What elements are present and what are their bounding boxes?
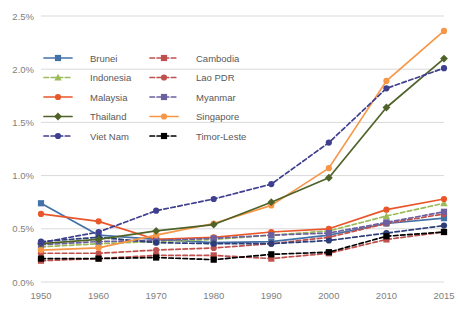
chart-container: 0.0%0.5%1.0%1.5%2.0%2.5%1950196019701980…	[0, 0, 459, 321]
x-tick-label: 2015	[433, 290, 454, 301]
marker-point	[326, 249, 332, 255]
line-chart: 0.0%0.5%1.0%1.5%2.0%2.5%1950196019701980…	[0, 0, 459, 321]
marker-point	[38, 200, 44, 206]
marker-legend-swatch	[55, 55, 61, 61]
legend-item-myanmar: Myanmar	[150, 92, 236, 103]
legend-item-indonesia: Indonesia	[44, 72, 132, 83]
legend: BruneiIndonesiaMalaysiaThailandViet NamC…	[44, 53, 246, 142]
y-tick-label: 1.0%	[12, 170, 34, 181]
marker-point	[326, 230, 332, 236]
y-axis-labels: 0.0%0.5%1.0%1.5%2.0%2.5%	[12, 11, 34, 288]
legend-item-lao-pdr: Lao PDR	[150, 72, 235, 83]
marker-point	[383, 78, 389, 84]
legend-item-viet-nam: Viet Nam	[44, 131, 129, 142]
legend-label: Singapore	[196, 111, 239, 122]
marker-point	[38, 211, 44, 217]
y-tick-label: 2.5%	[12, 11, 34, 22]
marker-point	[38, 255, 44, 261]
y-tick-label: 0.5%	[12, 223, 34, 234]
x-tick-label: 1960	[88, 290, 109, 301]
marker-point	[441, 196, 447, 202]
marker-legend-swatch	[55, 133, 61, 139]
marker-point	[326, 140, 332, 146]
marker-point	[153, 254, 159, 260]
legend-item-singapore: Singapore	[150, 111, 239, 122]
marker-legend-swatch	[161, 74, 167, 80]
legend-label: Myanmar	[196, 92, 236, 103]
legend-label: Cambodia	[196, 53, 240, 64]
x-tick-label: 2000	[318, 290, 339, 301]
x-tick-label: 1990	[261, 290, 282, 301]
x-tick-label: 2010	[376, 290, 397, 301]
x-tick-label: 1970	[146, 290, 167, 301]
legend-label: Viet Nam	[90, 131, 129, 142]
legend-label: Thailand	[90, 111, 126, 122]
marker-point	[153, 240, 159, 246]
marker-legend-swatch	[54, 113, 62, 121]
marker-point	[153, 208, 159, 214]
marker-point	[268, 232, 274, 238]
marker-point	[211, 196, 217, 202]
marker-legend-swatch	[55, 94, 61, 100]
y-tick-label: 0.0%	[12, 277, 34, 288]
marker-point	[211, 235, 217, 241]
legend-label: Indonesia	[90, 72, 132, 83]
marker-point	[441, 65, 447, 71]
marker-point	[152, 227, 160, 235]
legend-item-malaysia: Malaysia	[44, 92, 128, 103]
marker-point	[95, 229, 101, 235]
marker-point	[268, 251, 274, 257]
y-tick-label: 1.5%	[12, 117, 34, 128]
marker-point	[38, 240, 44, 246]
marker-point	[268, 181, 274, 187]
x-tick-label: 1980	[203, 290, 224, 301]
marker-point	[441, 209, 447, 215]
marker-point	[326, 237, 332, 243]
x-tick-label: 1950	[30, 290, 51, 301]
marker-point	[383, 219, 389, 225]
legend-label: Brunei	[90, 53, 117, 64]
marker-point	[268, 241, 274, 247]
marker-point	[441, 28, 447, 34]
x-axis-labels: 19501960197019801990200020102015	[30, 290, 454, 301]
marker-legend-swatch	[161, 133, 167, 139]
legend-label: Timor-Leste	[196, 131, 246, 142]
marker-point	[95, 255, 101, 261]
y-tick-label: 2.0%	[12, 64, 34, 75]
marker-point	[211, 241, 217, 247]
marker-point	[383, 207, 389, 213]
marker-point	[326, 165, 332, 171]
legend-item-brunei: Brunei	[44, 53, 117, 64]
marker-point	[383, 233, 389, 239]
legend-label: Malaysia	[90, 92, 128, 103]
marker-point	[38, 247, 44, 253]
marker-point	[95, 245, 101, 251]
marker-point	[441, 223, 447, 229]
marker-point	[383, 85, 389, 91]
marker-legend-swatch	[161, 113, 167, 119]
legend-item-thailand: Thailand	[44, 111, 126, 122]
marker-point	[441, 229, 447, 235]
marker-point	[153, 247, 159, 253]
legend-label: Lao PDR	[196, 72, 235, 83]
marker-point	[95, 250, 101, 256]
marker-point	[95, 218, 101, 224]
marker-legend-swatch	[161, 94, 167, 100]
legend-item-timor-leste: Timor-Leste	[150, 131, 246, 142]
marker-legend-swatch	[161, 55, 167, 61]
legend-item-cambodia: Cambodia	[150, 53, 240, 64]
marker-point	[211, 257, 217, 263]
